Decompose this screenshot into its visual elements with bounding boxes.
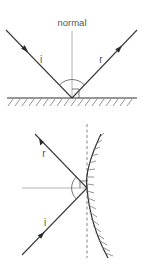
curved-mirror-surface	[87, 134, 108, 258]
reflected-arrowhead-icon	[39, 138, 44, 145]
curved-mirror-hatching	[87, 133, 113, 256]
reflected-ray	[72, 30, 137, 98]
reflected-label: r	[42, 148, 46, 159]
incident-ray	[22, 188, 87, 255]
curved-mirror-diagram: r i	[22, 124, 113, 258]
incident-label: i	[40, 54, 42, 65]
reflected-label: r	[99, 54, 103, 65]
reflection-diagram: normal i r	[0, 0, 145, 268]
incident-label: i	[44, 217, 46, 228]
plane-mirror-diagram: normal i r	[6, 17, 137, 106]
mirror-hatching	[8, 99, 132, 106]
normal-label: normal	[57, 17, 86, 28]
